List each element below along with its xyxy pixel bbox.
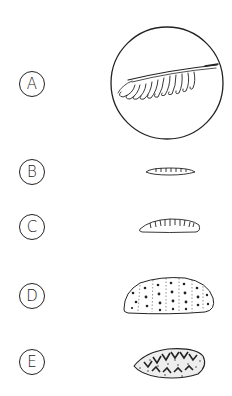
figure-a-magnified-comb[interactable] bbox=[111, 27, 223, 139]
figure-b-thin-larva[interactable] bbox=[146, 168, 195, 175]
figure-c-ribbed-larva[interactable] bbox=[139, 219, 199, 233]
larvae-illustrations bbox=[0, 0, 232, 396]
figure-d-spotted-larva[interactable] bbox=[124, 278, 214, 314]
figure-e-chevron-larva[interactable] bbox=[134, 349, 205, 378]
